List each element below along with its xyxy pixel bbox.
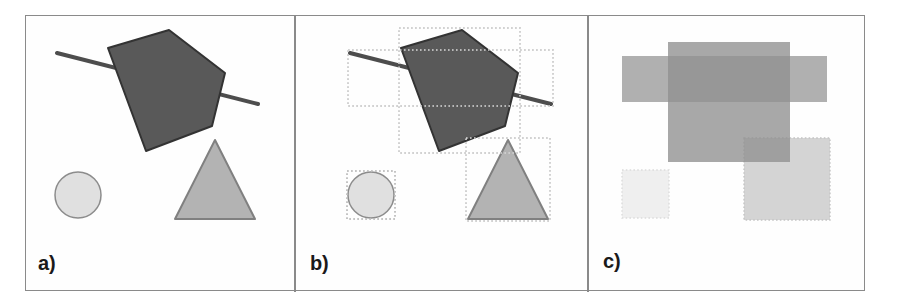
panel-b (296, 15, 587, 292)
triangle-shape-b (468, 140, 548, 219)
panel-a-canvas (0, 15, 294, 292)
pentagon-shape-a (108, 30, 225, 151)
panel-b-canvas (296, 15, 587, 292)
rect-circle-c (622, 170, 669, 218)
triangle-shape-a (175, 140, 255, 219)
circle-shape-b (348, 172, 394, 218)
circle-shape-a (55, 172, 101, 218)
panel-c-canvas (589, 15, 865, 292)
panel-a-label: a) (38, 252, 55, 275)
pentagon-shape-b (401, 30, 518, 151)
panel-b-label: b) (310, 252, 328, 275)
rect-pentagon-c (668, 42, 790, 162)
panel-c (589, 15, 865, 292)
figure-root: a) b) c) (0, 0, 897, 308)
panel-a (0, 15, 294, 292)
panel-c-label: c) (603, 250, 620, 273)
